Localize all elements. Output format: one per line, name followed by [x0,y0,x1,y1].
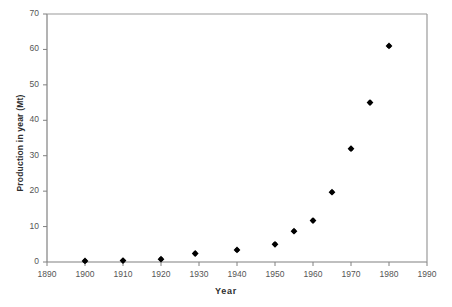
x-axis-title: Year [0,286,452,296]
x-tick-label: 1920 [141,269,181,279]
x-tick-label: 1900 [65,269,105,279]
data-point-core [193,251,197,255]
scatter-chart: 010203040506070 189019001910192019301940… [0,0,452,307]
data-point-core [159,257,163,261]
x-tick-label: 1910 [103,269,143,279]
y-axis-title: Production in year (Mt) [15,43,25,243]
x-tick-label: 1980 [369,269,409,279]
data-point-core [349,146,353,150]
data-point-core [235,248,239,252]
x-tick-label: 1930 [179,269,219,279]
data-point-core [387,44,391,48]
data-point-core [273,242,277,246]
data-point-core [121,258,125,262]
data-point-core [83,259,87,263]
data-point-core [292,229,296,233]
data-point-core [368,100,372,104]
x-tick-label: 1890 [27,269,67,279]
y-tick-label: 70 [5,8,39,18]
x-tick-label: 1940 [217,269,257,279]
plot-area [0,0,452,307]
x-tick-label: 1960 [293,269,333,279]
data-point-core [330,190,334,194]
data-point-core [311,218,315,222]
y-tick-label: 0 [5,256,39,266]
x-tick-label: 1970 [331,269,371,279]
data-markers [82,42,393,264]
x-tick-label: 1950 [255,269,295,279]
plot-frame [47,14,427,262]
x-tick-label: 1990 [407,269,447,279]
